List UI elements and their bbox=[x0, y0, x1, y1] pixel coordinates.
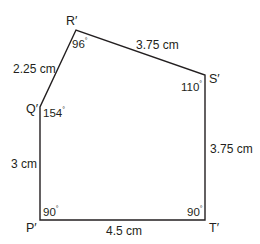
vertex-label-s: S′ bbox=[209, 72, 220, 86]
vertex-label-p: P′ bbox=[26, 221, 37, 235]
angle-label-q: 154° bbox=[43, 106, 65, 119]
vertex-label-r: R′ bbox=[66, 14, 78, 28]
side-length-st: 3.75 cm bbox=[210, 142, 253, 156]
vertex-label-q: Q′ bbox=[26, 102, 39, 116]
pentagon-diagram: R′ S′ Q′ P′ T′ 96° 110° 154° 90° 90° 2.2… bbox=[0, 0, 260, 244]
angle-label-s: 110° bbox=[181, 80, 202, 93]
side-length-tp: 4.5 cm bbox=[106, 224, 142, 238]
angle-label-r: 96° bbox=[72, 37, 88, 50]
vertex-label-t: T′ bbox=[209, 221, 220, 235]
side-length-rs: 3.75 cm bbox=[136, 38, 179, 52]
angle-label-t: 90° bbox=[187, 205, 203, 218]
side-length-pq: 3 cm bbox=[11, 157, 37, 171]
pentagon-outline bbox=[40, 30, 205, 220]
angle-label-p: 90° bbox=[43, 205, 59, 218]
side-length-qr: 2.25 cm bbox=[13, 62, 56, 76]
